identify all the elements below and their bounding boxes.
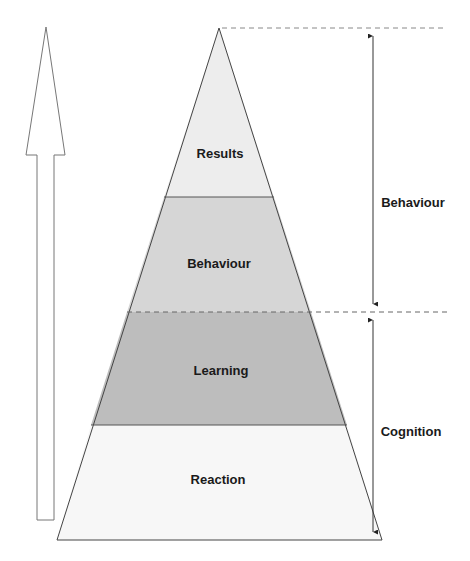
group-label-behaviour: Behaviour (381, 195, 445, 210)
group-label-cognition: Cognition (381, 424, 442, 439)
level-label-learning: Learning (194, 363, 249, 378)
level-results (164, 28, 274, 197)
level-behaviour (127, 197, 311, 312)
level-label-behaviour: Behaviour (187, 256, 251, 271)
upward-arrow-icon (26, 27, 65, 520)
level-label-results: Results (197, 146, 244, 161)
level-label-reaction: Reaction (191, 472, 246, 487)
